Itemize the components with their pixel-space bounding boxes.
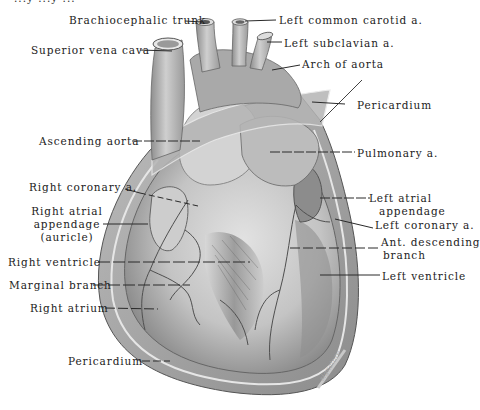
label-right-ventricle: Right ventricle <box>8 256 101 268</box>
label-left-subclavian: Left subclavian a. <box>284 37 394 49</box>
label-pericardium-top: Pericardium <box>357 99 432 111</box>
label-right-atrial-appendage-2: appendage <box>28 218 106 230</box>
label-pulmonary-a: Pulmonary a. <box>357 147 438 159</box>
label-arch-of-aorta: Arch of aorta <box>302 58 384 70</box>
label-left-atrial-appendage-2: appendage <box>379 205 446 217</box>
title-fragment: ...y ...y ... <box>14 0 76 4</box>
label-pericardium-bottom: Pericardium <box>68 355 143 367</box>
superior-vena-cava <box>151 40 185 160</box>
label-left-coronary: Left coronary a. <box>375 219 474 231</box>
label-left-common-carotid: Left common carotid a. <box>279 14 423 26</box>
label-ascending-aorta: Ascending aorta <box>39 135 139 147</box>
label-left-atrial-appendage-1: Left atrial <box>369 192 432 204</box>
label-brachiocephalic-trunk: Brachiocephalic trunk <box>69 14 206 26</box>
label-marginal-branch: Marginal branch <box>9 279 112 291</box>
label-right-atrial-appendage-3: (auricle) <box>28 231 106 243</box>
label-left-ventricle: Left ventricle <box>382 270 466 282</box>
label-right-atrial-appendage-1: Right atrial <box>28 205 106 217</box>
label-superior-vena-cava: Superior vena cava <box>31 44 150 56</box>
label-ant-descending-1: Ant. descending <box>381 236 480 248</box>
label-right-atrium: Right atrium <box>30 302 109 314</box>
label-right-coronary: Right coronary a. <box>29 181 137 193</box>
label-ant-descending-2: branch <box>383 249 426 261</box>
